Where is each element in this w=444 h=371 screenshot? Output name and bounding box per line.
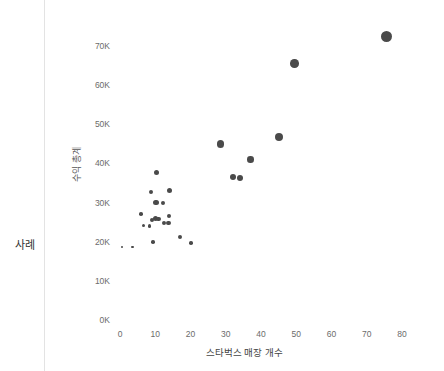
y-tick-label: 50K [76, 119, 110, 129]
scatter-point[interactable] [189, 241, 193, 245]
scatter-point[interactable] [237, 175, 243, 181]
x-tick-label: 30 [214, 329, 238, 339]
scatter-point[interactable] [178, 235, 182, 239]
left-shelf-pane: 사례 [0, 0, 44, 371]
y-tick-label: 60K [76, 80, 110, 90]
y-tick-label: 30K [76, 198, 110, 208]
scatter-point[interactable] [275, 133, 283, 141]
row-shelf-label: 사례 [6, 236, 44, 252]
scatter-point[interactable] [150, 218, 154, 222]
x-tick-label: 50 [284, 329, 308, 339]
scatter-point[interactable] [167, 188, 172, 193]
scatter-point[interactable] [166, 221, 171, 226]
scatter-point[interactable] [290, 59, 299, 68]
x-tick-label: 0 [108, 329, 132, 339]
x-tick-label: 80 [390, 329, 414, 339]
scatter-point[interactable] [162, 221, 166, 225]
scatter-point[interactable] [142, 224, 146, 228]
x-axis-title: 스타벅스 매장 개수 [45, 345, 444, 359]
scatter-point[interactable] [217, 140, 225, 148]
scatter-point[interactable] [161, 201, 165, 205]
scatter-point[interactable] [247, 156, 254, 163]
x-tick-label: 60 [320, 329, 344, 339]
y-tick-label: 0K [76, 315, 110, 325]
scatter-point[interactable] [156, 217, 161, 222]
x-tick-label: 20 [179, 329, 203, 339]
x-tick-label: 70 [355, 329, 379, 339]
x-tick-label: 40 [249, 329, 273, 339]
scatter-chart[interactable]: 수익 총계 스타벅스 매장 개수 0K10K20K30K40K50K60K70K… [45, 0, 444, 371]
scatter-point[interactable] [121, 246, 124, 249]
y-tick-label: 10K [76, 276, 110, 286]
scatter-point[interactable] [139, 212, 143, 216]
scatter-point[interactable] [148, 224, 152, 228]
y-tick-label: 20K [76, 237, 110, 247]
x-tick-label: 10 [143, 329, 167, 339]
scatter-point[interactable] [381, 31, 392, 42]
scatter-point[interactable] [167, 214, 171, 218]
scatter-point[interactable] [153, 200, 159, 206]
y-tick-label: 70K [76, 41, 110, 51]
scatter-point[interactable] [149, 190, 153, 194]
scatter-point[interactable] [151, 240, 155, 244]
scatter-point[interactable] [131, 246, 134, 249]
scatter-point[interactable] [154, 170, 159, 175]
y-tick-label: 40K [76, 158, 110, 168]
scatter-point[interactable] [230, 174, 236, 180]
